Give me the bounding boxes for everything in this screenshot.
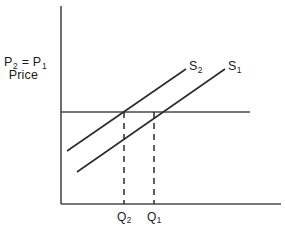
- supply-curve-1-label: S1: [228, 59, 242, 73]
- y-axis-label-p1-sub: 1: [41, 61, 46, 71]
- supply-curve-2-line: [67, 69, 186, 151]
- y-axis-label-p-prefix: P: [4, 55, 13, 69]
- quantity-1-label: Q1: [147, 211, 161, 224]
- supply-shift-diagram: P2 = P1 Price S2 S1 Q2 Q1: [0, 0, 285, 235]
- y-axis-label-line1: P2 = P1: [4, 55, 47, 69]
- quantity-2-label-sub: 2: [126, 216, 131, 225]
- y-axis-label-p2-sub: 2: [13, 61, 18, 71]
- supply-curve-1-label-sub: 1: [236, 65, 241, 75]
- quantity-1-label-prefix: Q: [147, 210, 156, 224]
- supply-curve-2-label-sub: 2: [197, 65, 202, 75]
- quantity-1-label-sub: 1: [156, 216, 161, 225]
- y-axis-label-equals: = P: [18, 55, 41, 69]
- supply-curve-1-line: [77, 69, 225, 172]
- diagram-canvas: [0, 0, 285, 235]
- y-axis-label: P2 = P1 Price: [4, 55, 47, 82]
- quantity-2-label: Q2: [117, 211, 131, 224]
- supply-curve-2-label: S2: [189, 59, 203, 73]
- quantity-2-label-prefix: Q: [117, 210, 126, 224]
